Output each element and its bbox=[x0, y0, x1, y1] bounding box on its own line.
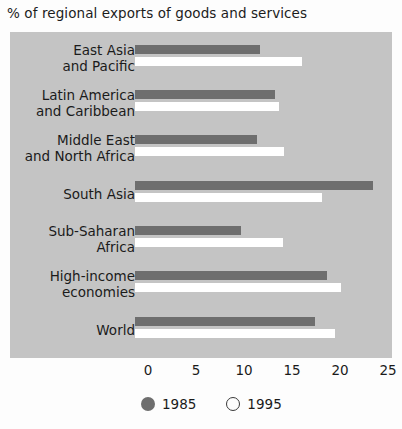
category-label: Sub-SaharanAfrica bbox=[5, 224, 135, 255]
category-label-line: Latin America bbox=[42, 87, 135, 103]
category-label: East Asiaand Pacific bbox=[5, 43, 135, 74]
bar-1995 bbox=[135, 102, 279, 111]
legend-label: 1985 bbox=[162, 396, 196, 412]
x-tick-label: 25 bbox=[379, 362, 396, 378]
category-label: Latin Americaand Caribbean bbox=[5, 88, 135, 119]
filled-circle-icon bbox=[141, 397, 155, 411]
legend-label: 1995 bbox=[247, 396, 281, 412]
legend-entry-1985: 1985 bbox=[141, 396, 196, 412]
bar-1985 bbox=[135, 226, 241, 235]
category-label-line: Africa bbox=[5, 240, 135, 256]
category-label-line: economies bbox=[5, 285, 135, 301]
category-label-line: and Caribbean bbox=[5, 104, 135, 120]
category-label-line: East Asia bbox=[73, 42, 135, 58]
bar-1985 bbox=[135, 271, 327, 280]
category-label: High-incomeeconomies bbox=[5, 269, 135, 300]
category-label-line: and Pacific bbox=[5, 59, 135, 75]
open-circle-icon bbox=[226, 397, 240, 411]
category-label-line: Sub-Saharan bbox=[48, 223, 135, 239]
x-tick-label: 20 bbox=[331, 362, 348, 378]
chart-title: % of regional exports of goods and servi… bbox=[7, 5, 307, 21]
legend-entry-1995: 1995 bbox=[226, 396, 281, 412]
bar-1985 bbox=[135, 181, 373, 190]
bar-1985 bbox=[135, 90, 275, 99]
category-label-line: High-income bbox=[50, 268, 135, 284]
x-tick-label: 0 bbox=[144, 362, 153, 378]
category-label-line: World bbox=[96, 322, 135, 338]
bar-1985 bbox=[135, 317, 315, 326]
bar-1995 bbox=[135, 193, 322, 202]
bar-1985 bbox=[135, 135, 257, 144]
bar-1985 bbox=[135, 45, 260, 54]
chart-legend: 19851995 bbox=[141, 396, 282, 412]
category-label: South Asia bbox=[5, 187, 135, 203]
category-label: World bbox=[5, 323, 135, 339]
category-label-line: South Asia bbox=[63, 186, 135, 202]
bar-1995 bbox=[135, 329, 335, 338]
bar-1995 bbox=[135, 57, 302, 66]
bar-1995 bbox=[135, 147, 284, 156]
bar-1995 bbox=[135, 283, 341, 292]
bar-1995 bbox=[135, 238, 283, 247]
x-tick-label: 10 bbox=[235, 362, 252, 378]
category-label-line: Middle East bbox=[57, 132, 135, 148]
category-label-line: and North Africa bbox=[5, 149, 135, 165]
x-tick-label: 15 bbox=[283, 362, 300, 378]
x-tick-label: 5 bbox=[192, 362, 201, 378]
x-axis-tick-labels: 0510152025 bbox=[0, 362, 402, 382]
category-label: Middle Eastand North Africa bbox=[5, 133, 135, 164]
